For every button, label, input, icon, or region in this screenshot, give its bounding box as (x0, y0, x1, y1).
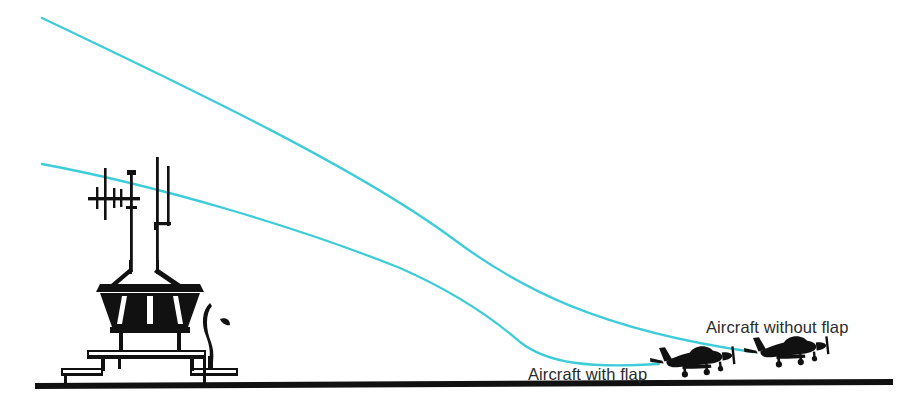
tower-right-ledge (190, 359, 238, 376)
tree (203, 303, 230, 369)
figure-canvas: Aircraft without flap Aircraft with flap (0, 0, 922, 419)
tower-shaft (119, 333, 181, 351)
label-aircraft-with-flap: Aircraft with flap (528, 365, 647, 384)
tower-left-ledge (61, 359, 105, 376)
tower-cab (100, 293, 200, 333)
tower-antenna-mast (88, 157, 171, 272)
tower-cab-roof (96, 284, 204, 292)
ground-line (35, 379, 893, 389)
illustration-svg (0, 0, 922, 419)
label-aircraft-without-flap: Aircraft without flap (706, 318, 848, 337)
tower-gallery-slab (87, 350, 206, 359)
glide-path-with-flap (42, 164, 659, 365)
